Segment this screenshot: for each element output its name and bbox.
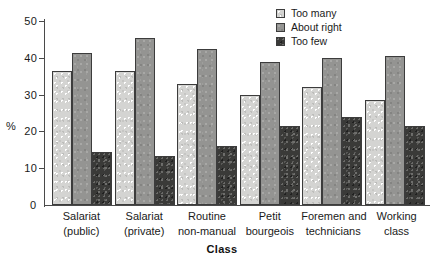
category-label-line: class — [365, 224, 428, 239]
bar-group — [365, 21, 425, 205]
category-label-line: Working — [365, 209, 428, 224]
y-axis-title: % — [6, 120, 16, 132]
y-tick-label-10: 10 — [24, 162, 37, 174]
bar — [52, 71, 72, 205]
y-tick-label-50: 50 — [24, 15, 37, 27]
bar — [260, 62, 280, 205]
bar-chart: Too many About right Too few % 0 1020304… — [0, 0, 444, 267]
bar-group — [240, 21, 300, 205]
bar — [197, 49, 217, 205]
plot-area: 1020304050 — [44, 21, 429, 205]
category-label-line: Salariat — [113, 209, 176, 224]
y-tick-label-40: 40 — [24, 52, 37, 64]
bar — [177, 84, 197, 205]
bar-group — [177, 21, 237, 205]
y-tick-label-0: 0 — [30, 199, 36, 211]
bar — [217, 146, 237, 205]
legend-swatch-too-many — [276, 9, 285, 18]
category-label-line: non-manual — [176, 224, 239, 239]
bar — [365, 100, 385, 205]
bar-group — [52, 21, 112, 205]
bar — [385, 56, 405, 205]
category-label-line: bourgeois — [238, 224, 301, 239]
bar-groups — [44, 21, 429, 205]
y-tick-label-30: 30 — [24, 89, 37, 101]
bar — [72, 53, 92, 205]
bar — [240, 95, 260, 205]
bar — [92, 152, 112, 205]
category-label-line: Salariat — [50, 209, 113, 224]
bar — [115, 71, 135, 205]
bar — [280, 126, 300, 205]
bar — [405, 126, 425, 205]
legend-item-too-many: Too many — [276, 7, 342, 19]
bar-group — [302, 21, 362, 205]
x-axis-line — [44, 205, 430, 206]
bar — [302, 87, 322, 205]
category-label-line: (private) — [113, 224, 176, 239]
legend-label-too-many: Too many — [291, 7, 337, 19]
bar — [322, 58, 342, 205]
category-label-line: Petit — [238, 209, 301, 224]
bar — [155, 156, 175, 205]
category-label-line: Foremen and — [301, 209, 365, 224]
x-axis-title: Class — [0, 243, 444, 255]
bar-group — [115, 21, 175, 205]
bar — [135, 38, 155, 205]
y-tick-label-20: 20 — [24, 125, 37, 137]
category-label-line: (public) — [50, 224, 113, 239]
bar — [342, 117, 362, 205]
category-label-line: technicians — [301, 224, 365, 239]
category-label-line: Routine — [176, 209, 239, 224]
